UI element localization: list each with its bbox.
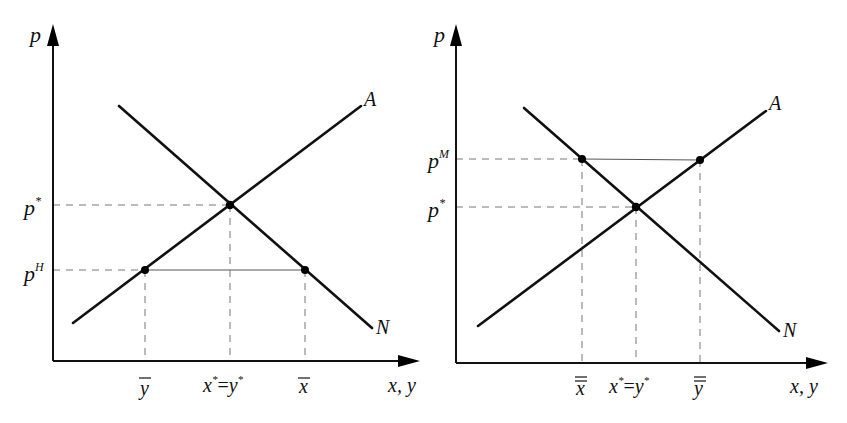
- right-equilibrium-point: [632, 203, 640, 211]
- right-y-axis-arrow-icon: [450, 24, 462, 46]
- right-curve-n: [524, 108, 779, 331]
- right-point-a-at-p-m: [696, 156, 704, 164]
- right-curve-a: [478, 111, 766, 326]
- left-equilibrium-quantity-label: x*=y*: [202, 373, 244, 397]
- left-curve-n: [119, 106, 372, 328]
- left-curve-n-label: N: [375, 316, 391, 338]
- left-y-bar-label: y: [138, 377, 151, 400]
- left-p-h-label: pH: [22, 260, 45, 286]
- right-x-axis-arrow-icon: [806, 357, 828, 369]
- svg-text:x: x: [575, 377, 585, 399]
- right-diagram: p A N pM p* x x*=y* y x, y: [426, 22, 828, 400]
- right-curve-n-label: N: [782, 319, 798, 341]
- left-point-a-at-p-h: [141, 266, 149, 274]
- right-p-m-segment: [582, 159, 700, 160]
- left-curve-a-label: A: [362, 88, 377, 110]
- left-curve-a: [73, 106, 361, 323]
- left-y-axis-label: p: [28, 22, 41, 47]
- left-p-star-label: p*: [22, 194, 41, 220]
- svg-text:x: x: [298, 375, 308, 397]
- right-equilibrium-quantity-label: x*=y*: [608, 374, 650, 398]
- left-x-axis-label: x, y: [387, 374, 416, 397]
- left-diagram: p A N p* pH y x*=y* x x, y: [22, 22, 420, 400]
- right-curve-a-label: A: [767, 92, 782, 114]
- right-x-axis-label: x, y: [789, 375, 818, 398]
- left-point-n-at-p-h: [301, 266, 309, 274]
- right-point-n-at-p-m: [578, 155, 586, 163]
- right-p-star-label: p*: [426, 196, 445, 222]
- diagram-canvas: p A N p* pH y x*=y* x x, y: [0, 0, 847, 423]
- left-y-axis-arrow-icon: [47, 24, 59, 46]
- right-y-axis-label: p: [432, 22, 445, 47]
- left-x-bar-label: x: [298, 375, 310, 397]
- svg-text:y: y: [138, 377, 149, 400]
- left-equilibrium-point: [226, 201, 234, 209]
- right-x-double-bar-label: x: [575, 377, 587, 399]
- left-x-axis-arrow-icon: [398, 355, 420, 367]
- right-y-double-bar-label: y: [692, 377, 706, 400]
- svg-text:y: y: [692, 377, 703, 400]
- right-p-m-label: pM: [426, 147, 450, 173]
